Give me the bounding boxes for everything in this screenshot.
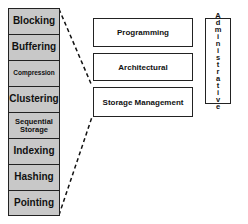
- storage-management-layer-box: Storage Management: [93, 87, 193, 117]
- stack-cell-blocking: Blocking: [9, 9, 59, 35]
- storage-management-label: Storage Management: [103, 98, 184, 107]
- administrative-letter: e: [216, 103, 220, 110]
- stack-cell-pointing: Pointing: [9, 191, 59, 215]
- stack-cell-hashing: Hashing: [9, 165, 59, 191]
- stack-cell-indexing: Indexing: [9, 139, 59, 165]
- stack-cell-clustering: Clustering: [9, 87, 59, 113]
- programming-label: Programming: [117, 28, 169, 37]
- stack-cell-buffering: Buffering: [9, 35, 59, 61]
- storage-technique-stack: BlockingBufferingCompressionClusteringSe…: [8, 8, 60, 216]
- programming-layer-box: Programming: [93, 18, 193, 47]
- administrative-panel: Administrative: [205, 18, 231, 104]
- stack-cell-sequential-storage: Sequential Storage: [9, 113, 59, 139]
- architectural-layer-box: Architectural: [93, 53, 193, 81]
- stack-cell-compression: Compression: [9, 61, 59, 87]
- architectural-label: Architectural: [118, 63, 167, 72]
